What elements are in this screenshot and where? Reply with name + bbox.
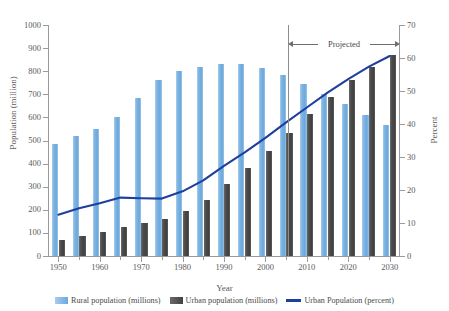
legend-item[interactable]: Urban population (millions) [170, 296, 278, 305]
legend-swatch-icon [55, 297, 68, 304]
chart-legend: Rural population (millions)Urban populat… [0, 296, 449, 305]
legend-label: Urban Population (percent) [304, 296, 394, 305]
chart-container: 01002003004005006007008009001000 0102030… [0, 0, 449, 311]
legend-item[interactable]: Urban Population (percent) [286, 296, 394, 305]
x-axis-title: Year [0, 283, 449, 293]
projection-divider-line [288, 25, 289, 256]
legend-label: Urban population (millions) [186, 296, 278, 305]
arrow-right-icon [395, 41, 400, 47]
legend-label: Rural population (millions) [71, 296, 161, 305]
legend-swatch-icon [170, 297, 183, 304]
projected-bracket: Projected [288, 38, 400, 50]
y-axis-title-right: Percent [429, 100, 439, 160]
legend-line-icon [286, 299, 301, 302]
legend-item[interactable]: Rural population (millions) [55, 296, 161, 305]
projected-label: Projected [318, 38, 370, 50]
y-axis-title-left: Population (million) [8, 53, 18, 173]
